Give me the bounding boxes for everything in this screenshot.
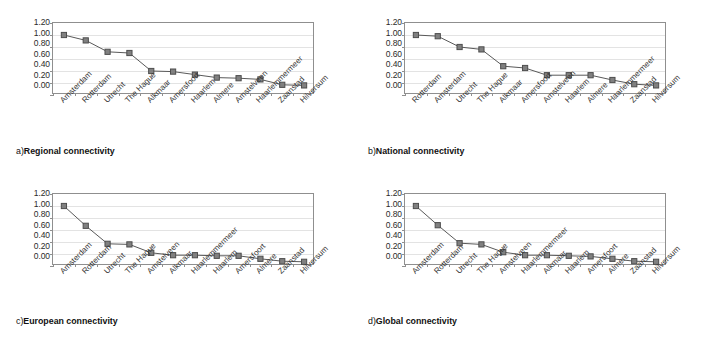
data-point-marker — [170, 69, 175, 74]
y-axis-tick-label: 0.80 — [34, 39, 50, 48]
panel-caption-text: Regional connectivity — [24, 146, 115, 156]
y-axis-tick-label: 0.00 — [34, 81, 50, 90]
panel-caption-index: d) — [368, 316, 376, 326]
y-axis-tick-label: 0.00 — [34, 252, 50, 261]
y-axis-tick-label: 0.60 — [386, 50, 402, 59]
panel-d: 1.201.000.800.600.400.200.00AmsterdamRot… — [352, 175, 704, 347]
y-axis-tick-label: 0.80 — [386, 39, 402, 48]
y-axis-tick-label: 1.20 — [34, 189, 50, 198]
panel-caption-index: a) — [16, 146, 24, 156]
y-axis-tick-label: 1.20 — [34, 18, 50, 27]
y-axis-tick-label: 0.20 — [34, 71, 50, 80]
data-point-marker — [61, 32, 66, 37]
panel-caption-index: b) — [368, 146, 376, 156]
data-point-marker — [127, 50, 132, 55]
data-point-marker — [522, 65, 527, 70]
data-point-marker — [413, 203, 418, 208]
y-axis-tick-label: 0.80 — [34, 210, 50, 219]
y-axis-tick-label: 1.00 — [34, 200, 50, 209]
data-point-marker — [127, 242, 132, 247]
panel-a: 1.201.000.800.600.400.200.00AmsterdamRot… — [0, 0, 352, 175]
data-point-marker — [435, 223, 440, 228]
panel-caption: d)Global connectivity — [368, 316, 457, 326]
y-axis-tick-label: 1.00 — [386, 29, 402, 38]
y-axis-tick-label: 0.00 — [386, 252, 402, 261]
data-point-marker — [588, 73, 593, 78]
y-axis-tick-label: 0.80 — [386, 210, 402, 219]
panel-caption-text: National connectivity — [376, 146, 464, 156]
panel-caption: a)Regional connectivity — [16, 146, 115, 156]
data-point-marker — [83, 38, 88, 43]
y-axis-tick-labels: 1.201.000.800.600.400.200.00 — [368, 22, 402, 94]
y-axis-tick-label: 0.60 — [34, 221, 50, 230]
y-axis-tick-label: 0.40 — [34, 60, 50, 69]
y-axis-tick-label: 0.60 — [34, 50, 50, 59]
y-axis-tick-labels: 1.201.000.800.600.400.200.00 — [16, 22, 50, 94]
data-point-marker — [83, 223, 88, 228]
panel-caption-text: Global connectivity — [376, 316, 457, 326]
data-point-marker — [435, 34, 440, 39]
panel-caption-text: European connectivity — [23, 316, 117, 326]
panel-caption: b)National connectivity — [368, 146, 464, 156]
y-axis-tick-label: 0.00 — [386, 81, 402, 90]
y-axis-tick-labels: 1.201.000.800.600.400.200.00 — [368, 193, 402, 265]
y-axis-tick-labels: 1.201.000.800.600.400.200.00 — [16, 193, 50, 265]
figure-panel-grid: 1.201.000.800.600.400.200.00AmsterdamRot… — [0, 0, 704, 347]
data-point-marker — [479, 47, 484, 52]
data-point-marker — [214, 75, 219, 80]
y-axis-tick-label: 0.40 — [386, 60, 402, 69]
y-axis-tick-label: 0.20 — [386, 242, 402, 251]
y-axis-tick-label: 0.20 — [386, 71, 402, 80]
panel-c: 1.201.000.800.600.400.200.00AmsterdamRot… — [0, 175, 352, 347]
data-point-marker — [610, 77, 615, 82]
data-point-marker — [61, 203, 66, 208]
y-axis-tick-label: 0.40 — [34, 231, 50, 240]
data-point-marker — [457, 44, 462, 49]
y-axis-tick-label: 1.20 — [386, 18, 402, 27]
data-point-marker — [105, 49, 110, 54]
data-point-marker — [236, 76, 241, 81]
y-axis-tick-label: 1.20 — [386, 189, 402, 198]
y-axis-tick-label: 0.40 — [386, 231, 402, 240]
panel-caption: c)European connectivity — [16, 316, 118, 326]
y-axis-tick-label: 0.20 — [34, 242, 50, 251]
y-axis-tick-label: 0.60 — [386, 221, 402, 230]
y-axis-tick-label: 1.00 — [34, 29, 50, 38]
y-axis-tick-label: 1.00 — [386, 200, 402, 209]
data-point-marker — [479, 242, 484, 247]
data-point-marker — [413, 32, 418, 37]
data-point-marker — [501, 64, 506, 69]
panel-b: 1.201.000.800.600.400.200.00RotterdamAms… — [352, 0, 704, 175]
